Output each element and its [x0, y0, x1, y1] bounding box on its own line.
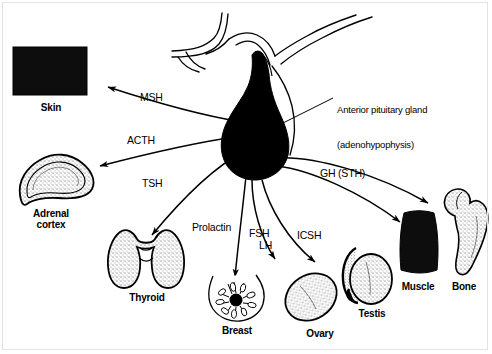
figure-canvas: Anterior pituitary gland (adenohypophysi…	[0, 0, 492, 354]
pituitary-leader-line	[275, 98, 333, 127]
pituitary-gland	[221, 51, 289, 180]
callout-line-1: Anterior pituitary gland	[337, 104, 427, 116]
organ-label-testis: Testis	[350, 308, 394, 319]
hormone-label-tsh: TSH	[142, 178, 162, 190]
skin-organ	[13, 47, 87, 95]
arrow-msh	[108, 87, 242, 122]
organ-label-breast: Breast	[212, 325, 262, 336]
ovary-organ	[276, 264, 345, 330]
hormone-label-icsh: ICSH	[297, 230, 321, 242]
anterior-pituitary-callout: Anterior pituitary gland (adenohypophysi…	[337, 81, 427, 174]
organ-label-thyroid: Thyroid	[111, 292, 183, 303]
arrow-acth	[100, 136, 241, 166]
organ-label-muscle: Muscle	[392, 281, 444, 292]
organ-label-adrenal-cortex: Adrenal cortex	[16, 208, 86, 230]
breast-organ	[209, 275, 264, 321]
muscle-organ	[400, 211, 438, 273]
hormone-label-msh: MSH	[140, 92, 163, 104]
bone-organ	[444, 189, 487, 275]
testis-organ	[343, 248, 392, 304]
hormone-label-fsh: FSH	[249, 228, 269, 240]
organ-label-bone: Bone	[443, 281, 485, 292]
callout-line-2: (adenohypophysis)	[337, 139, 427, 151]
organ-label-skin: Skin	[22, 102, 80, 113]
adrenal-cortex-organ	[20, 155, 94, 205]
diagram-artwork	[0, 0, 492, 354]
arrow-prolactin	[235, 176, 246, 277]
organ-label-ovary: Ovary	[296, 328, 344, 339]
hormone-label-acth: ACTH	[127, 135, 155, 147]
hormone-label-gh: GH (STH)	[320, 168, 365, 180]
hormone-label-prolactin: Prolactin	[192, 222, 231, 234]
hormone-label-lh: LH	[259, 240, 272, 252]
thyroid-organ	[108, 230, 184, 288]
